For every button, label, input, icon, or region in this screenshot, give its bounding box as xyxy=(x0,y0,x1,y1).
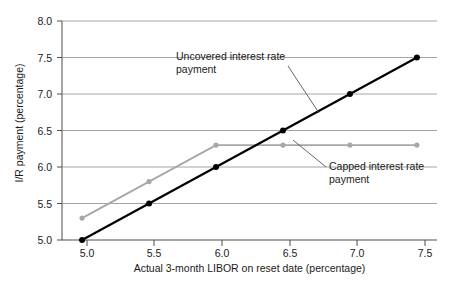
y-tick-marks xyxy=(57,21,62,240)
chart-figure: 8.0 7.5 7.0 6.5 6.0 5.5 5.0 5.0 5.5 6.0 … xyxy=(0,0,458,283)
data-point xyxy=(347,91,353,97)
data-point xyxy=(347,143,352,148)
annotation-uncovered-line2: payment xyxy=(176,63,216,75)
annotation-uncovered-line1: Uncovered interest rate xyxy=(176,50,285,62)
x-tick-label: 6.5 xyxy=(270,247,310,259)
line-chart-plot xyxy=(0,0,458,283)
data-point xyxy=(79,237,85,243)
data-point xyxy=(146,179,151,184)
annotation-capped: Capped interest rate payment xyxy=(329,160,424,186)
x-tick-label: 6.0 xyxy=(202,247,242,259)
x-tick-marks xyxy=(87,240,425,246)
y-axis-title: I/R payment (percentage) xyxy=(13,38,25,208)
annotation-capped-line1: Capped interest rate xyxy=(329,160,424,172)
x-tick-label: 5.0 xyxy=(67,247,107,259)
annotation-capped-line2: payment xyxy=(329,173,369,185)
data-point xyxy=(280,143,285,148)
data-point xyxy=(213,164,219,170)
annotation-uncovered: Uncovered interest rate payment xyxy=(176,50,285,76)
data-point xyxy=(213,143,218,148)
data-point xyxy=(414,143,419,148)
x-tick-label: 7.5 xyxy=(405,247,445,259)
data-point xyxy=(280,128,286,134)
data-point xyxy=(146,201,152,207)
y-tick-label: 5.0 xyxy=(12,234,52,246)
y-tick-label: 8.0 xyxy=(12,15,52,27)
x-tick-label: 7.0 xyxy=(337,247,377,259)
leader-line-uncovered xyxy=(288,66,319,113)
data-point xyxy=(79,216,84,221)
x-axis-title: Actual 3-month LIBOR on reset date (perc… xyxy=(62,262,437,274)
x-tick-label: 5.5 xyxy=(134,247,174,259)
series-uncovered-interest-rate-payment xyxy=(79,55,420,244)
data-point xyxy=(414,55,420,61)
leader-line-capped xyxy=(293,140,326,167)
